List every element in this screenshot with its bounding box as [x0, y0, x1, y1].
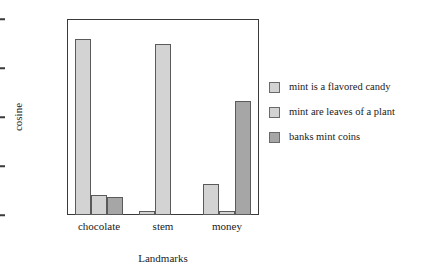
- legend-swatch-icon: [269, 132, 280, 143]
- bar: [91, 195, 107, 215]
- x-axis-tick-label: chocolate: [78, 220, 120, 232]
- x-axis-tick-label: stem: [153, 220, 174, 232]
- bar: [139, 211, 155, 215]
- y-axis: 00.250.50.751: [0, 0, 67, 240]
- y-axis-tick-mark: [0, 67, 5, 69]
- y-axis-tick-mark: [0, 165, 5, 167]
- bar: [203, 184, 219, 215]
- legend-item[interactable]: mint is a flavored candy: [269, 81, 427, 94]
- chart-figure: 00.250.50.751 cosine chocolatestemmoney …: [0, 0, 428, 277]
- bar: [219, 211, 235, 215]
- x-axis-tick-label: money: [212, 220, 242, 232]
- legend-item[interactable]: banks mint coins: [269, 131, 427, 144]
- y-axis-tick-mark: [0, 214, 5, 216]
- legend-swatch-icon: [269, 82, 280, 93]
- legend-item-label: mint is a flavored candy: [289, 82, 390, 93]
- legend-item-label: banks mint coins: [289, 132, 360, 143]
- bar: [75, 39, 91, 215]
- bar: [235, 101, 251, 215]
- legend: mint is a flavored candymint are leaves …: [269, 81, 427, 156]
- legend-item[interactable]: mint are leaves of a plant: [269, 106, 427, 119]
- y-axis-title: cosine: [12, 103, 24, 131]
- bar: [155, 44, 171, 216]
- legend-swatch-icon: [269, 107, 280, 118]
- legend-item-label: mint are leaves of a plant: [289, 107, 395, 118]
- bar: [107, 197, 123, 215]
- y-axis-tick-mark: [0, 18, 5, 20]
- y-axis-tick-mark: [0, 116, 5, 118]
- x-axis-title: Landmarks: [138, 252, 187, 264]
- bars-layer: [67, 19, 259, 215]
